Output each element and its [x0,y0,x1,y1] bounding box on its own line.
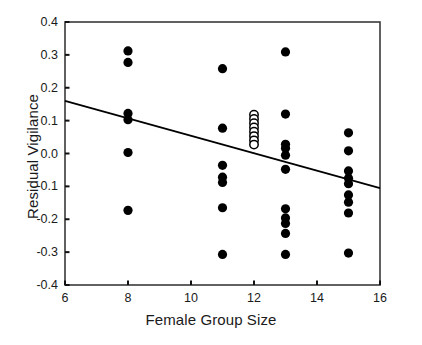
data-point-filled [281,165,290,174]
scatter-plot-figure: Residual Vigilance Female Group Size -0.… [0,0,422,345]
data-point-filled [123,46,132,55]
data-point-filled [281,109,290,118]
data-point-filled [123,206,132,215]
plot-canvas [0,0,422,345]
data-point-filled [344,146,353,155]
data-point-filled [281,151,290,160]
data-point-filled [123,148,132,157]
data-point-filled [281,229,290,238]
data-point-filled [281,47,290,56]
data-point-filled [218,64,227,73]
data-point-open [250,140,258,148]
data-point-filled [123,115,132,124]
axis-tick-marks [65,22,380,285]
data-point-filled [123,58,132,67]
data-points-filled [123,46,353,259]
data-point-filled [281,250,290,259]
data-point-filled [218,203,227,212]
data-point-filled [344,179,353,188]
data-point-filled [281,219,290,228]
data-point-filled [218,250,227,259]
data-point-filled [218,178,227,187]
data-point-filled [344,249,353,258]
data-point-filled [218,124,227,133]
data-point-filled [344,198,353,207]
data-point-filled [344,128,353,137]
data-point-filled [344,208,353,217]
axis-frame [65,22,380,285]
data-point-filled [281,204,290,213]
data-points-open [250,111,258,149]
data-point-filled [218,161,227,170]
